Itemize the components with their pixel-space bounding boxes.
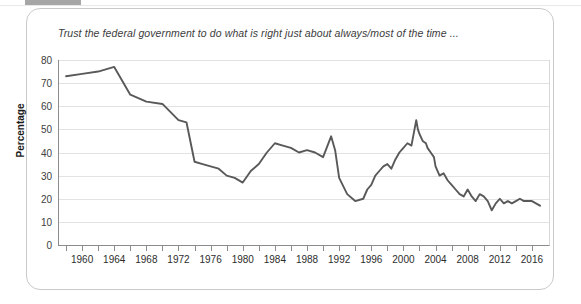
x-tick-1966 (130, 246, 131, 251)
x-tick-1970 (162, 246, 163, 251)
x-tick-2016 (532, 246, 533, 251)
x-tick-1962 (98, 246, 99, 251)
x-tick-1994 (355, 246, 356, 251)
x-tick-2012 (500, 246, 501, 251)
x-tick-1988 (307, 246, 308, 251)
x-tick-2006 (452, 246, 453, 251)
x-tick-1984 (275, 246, 276, 251)
x-tick-1974 (195, 246, 196, 251)
x-tick-2008 (468, 246, 469, 251)
chart-plot-wrapper: Percentage 01020304050607080 19601964196… (0, 0, 581, 304)
x-tick-1964 (114, 246, 115, 251)
x-tick-1968 (146, 246, 147, 251)
x-tick-1986 (291, 246, 292, 251)
x-tick-1958 (66, 246, 67, 251)
x-tick-1978 (227, 246, 228, 251)
x-tick-1990 (323, 246, 324, 251)
x-tick-1972 (178, 246, 179, 251)
x-tick-2002 (419, 246, 420, 251)
x-tick-1996 (371, 246, 372, 251)
trust-line-series (66, 67, 540, 210)
x-tick-2004 (436, 246, 437, 251)
x-tick-label-2016: 2016 (512, 254, 552, 265)
x-tick-1980 (243, 246, 244, 251)
x-tick-2010 (484, 246, 485, 251)
x-tick-1982 (259, 246, 260, 251)
x-tick-2000 (403, 246, 404, 251)
x-tick-1960 (82, 246, 83, 251)
x-tick-2014 (516, 246, 517, 251)
x-tick-1992 (339, 246, 340, 251)
x-tick-1976 (211, 246, 212, 251)
x-tick-1998 (387, 246, 388, 251)
